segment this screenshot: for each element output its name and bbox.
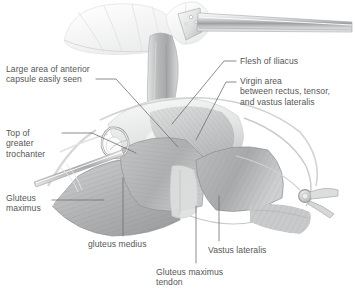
label-flesh-of-iliacus: Flesh of Iliacus — [240, 56, 298, 66]
anatomical-illustration — [0, 0, 355, 300]
label-virgin-area: Virgin area between rectus, tensor, and … — [240, 76, 330, 107]
label-large-area-anterior-capsule: Large area of anterior capsule easily se… — [6, 64, 90, 85]
label-top-of-greater-trochanter: Top of greater trochanter — [6, 128, 45, 159]
gluteus-maximus-tendon — [170, 166, 198, 219]
label-gluteus-maximus: Gluteus maximus — [6, 193, 41, 214]
label-gluteus-maximus-tendon: Gluteus maximus tendon — [156, 267, 223, 288]
label-vastus-lateralis: Vastus lateralis — [208, 245, 266, 255]
label-gluteus-medius: gluteus medius — [88, 239, 147, 249]
figure-page: Large area of anterior capsule easily se… — [0, 0, 355, 300]
